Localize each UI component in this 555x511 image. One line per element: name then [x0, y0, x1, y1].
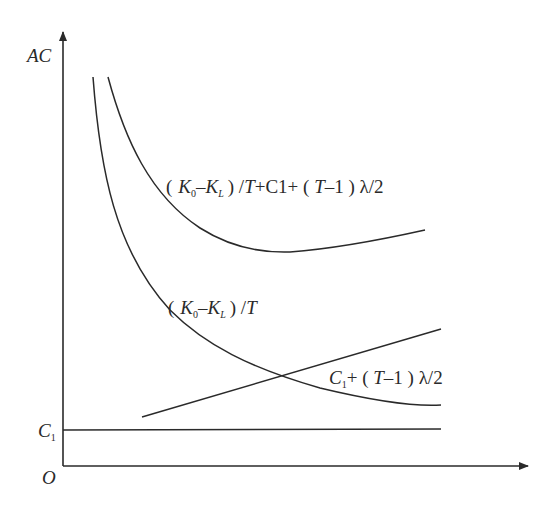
- fixed-cost-curve: [93, 77, 441, 405]
- total-average-cost-curve: [108, 77, 425, 252]
- cost-diagram: AC O C1 (K0–KL) /T+C1+ ( T–1 ) λ/2 (K0–K…: [0, 0, 555, 511]
- fixed-curve-label: (K0–KL) /T: [168, 297, 258, 320]
- c1-axis-label: C1: [38, 420, 56, 443]
- c1-line: [63, 429, 441, 430]
- y-axis-label: AC: [25, 45, 52, 66]
- total-curve-label: (K0–KL) /T+C1+ ( T–1 ) λ/2: [166, 176, 384, 199]
- origin-label: O: [42, 467, 56, 488]
- linear-curve-label: C1+ ( T–1 ) λ/2: [329, 367, 443, 390]
